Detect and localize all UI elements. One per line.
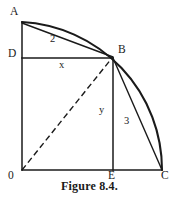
figure-caption: Figure 8.4. <box>0 179 179 194</box>
length-label-chord-ab: 2 <box>50 34 55 45</box>
length-label-chord-bc: 3 <box>124 116 129 127</box>
chord-bc <box>113 58 162 170</box>
length-label-segment-db: x <box>59 60 64 71</box>
point-label-b: B <box>118 44 126 56</box>
geometry-drawing <box>0 0 179 197</box>
length-label-segment-be: y <box>99 105 104 116</box>
point-label-d: D <box>8 48 16 60</box>
arc-a-to-c <box>22 22 162 170</box>
chord-ab <box>22 23 113 57</box>
point-label-a: A <box>10 6 18 18</box>
figure-8-4: A B C D E 0 2 x y 3 Figure 8.4. <box>0 0 179 197</box>
